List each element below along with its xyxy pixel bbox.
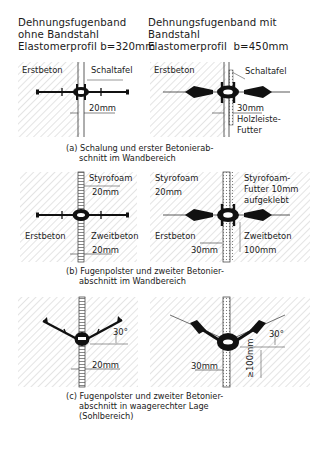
dimension-100mm: 100mm [244, 246, 276, 256]
label-futter: Futter [237, 126, 262, 136]
header-right-line-3: Elastomerprofil b=450mm [148, 41, 289, 53]
dimension-20mm: 20mm [92, 361, 119, 371]
caption-c-line-3: (Sohlbereich) [79, 411, 133, 421]
dimension-min-100mm: ≥100mm [246, 339, 256, 378]
caption-c-line-1: (c) Fugenpolster und zweiter Betonier- [66, 391, 223, 401]
header-right-line-1: Dehnungsfugenband mit [148, 17, 277, 29]
dimension-20mm: 20mm [92, 188, 119, 198]
label-zweitbeton: Zweitbeton [91, 232, 139, 242]
label-erstbeton: Erstbeton [25, 232, 66, 242]
caption-c-line-2: abschnitt in waagerechter Lage [79, 401, 209, 411]
label-styrofoam: Styrofoam [155, 174, 198, 184]
label-erstbeton: Erstbeton [22, 66, 63, 76]
header-left-line-3: Elastomerprofil b=320mm [18, 41, 155, 53]
header-left-line-1: Dehnungsfugenband [18, 17, 126, 29]
label-erstbeton: Erstbeton [154, 66, 195, 76]
caption-b-line-1: (b) Fugenpolster und zweiter Betonier- [66, 266, 224, 276]
dimension-20mm: 20mm [155, 188, 182, 198]
panel-c-right-drawing [150, 297, 310, 387]
caption-a-line-1: (a) Schalung und erster Betonierab- [66, 143, 213, 153]
angle-30-degrees: 30° [269, 330, 284, 340]
header-left-line-2: ohne Bandstahl [18, 29, 99, 41]
panel-b-left-drawing [20, 172, 137, 262]
label-schaltafel: Schaltafel [91, 66, 133, 76]
dimension-30mm: 30mm [191, 246, 218, 256]
label-holzleiste: Holzleiste- [237, 115, 281, 125]
label-schaltafel: Schaltafel [245, 67, 287, 77]
dimension-30mm: 30mm [191, 362, 218, 372]
label-styrofoam: Styrofoam [89, 174, 132, 184]
dimension-20mm: 20mm [89, 104, 116, 114]
label-zweitbeton: Zweitbeton [244, 232, 292, 242]
angle-30-degrees: 30° [113, 328, 128, 338]
label-futter-10mm: Futter 10mm [244, 185, 298, 195]
label-aufgeklebt: aufgeklebt [244, 196, 289, 206]
header-right-line-2: Bandstahl [148, 29, 200, 41]
caption-a-line-2: schnitt im Wandbereich [79, 153, 176, 163]
caption-b-line-2: abschnitt im Wandbereich [79, 276, 186, 286]
dimension-30mm: 30mm [237, 104, 264, 114]
label-styrofoam-futter: Styrofoam- [244, 174, 290, 184]
label-erstbeton: Erstbeton [155, 232, 196, 242]
dimension-20mm: 20mm [92, 246, 119, 256]
panel-c-left-drawing [18, 297, 138, 387]
